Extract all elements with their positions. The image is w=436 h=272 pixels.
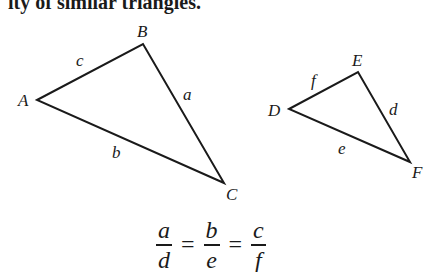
vertex-label-b: B	[137, 22, 148, 41]
numerator: b	[204, 218, 220, 244]
numerator: a	[156, 218, 172, 244]
triangle-abc	[37, 44, 224, 183]
vertex-label-c: C	[226, 185, 238, 204]
proportion-equation: a d = b e = c f	[156, 218, 266, 272]
vertex-label-f: F	[411, 163, 423, 182]
vertex-label-e: E	[351, 51, 363, 70]
side-label-a: a	[183, 85, 192, 104]
fraction-a-over-d: a d	[156, 218, 172, 272]
denominator: e	[204, 246, 219, 272]
side-label-b: b	[112, 143, 121, 162]
denominator: f	[253, 246, 264, 272]
fraction-b-over-e: b e	[204, 218, 220, 272]
equals-sign: =	[181, 231, 195, 258]
equals-sign: =	[229, 231, 243, 258]
fraction-c-over-f: c f	[251, 218, 266, 272]
side-label-e: e	[338, 139, 346, 158]
side-label-f: f	[311, 71, 318, 90]
vertex-label-a: A	[17, 91, 29, 110]
side-label-d: d	[389, 100, 398, 119]
vertex-label-d: D	[267, 101, 281, 120]
denominator: d	[156, 246, 172, 272]
numerator: c	[251, 218, 266, 244]
side-label-c: c	[76, 51, 84, 70]
